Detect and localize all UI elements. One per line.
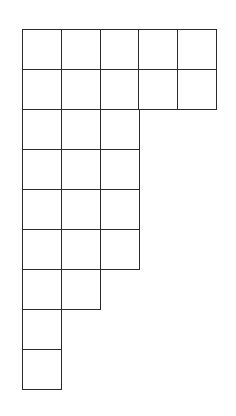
diagram-cell — [100, 29, 140, 70]
diagram-cell — [22, 69, 62, 110]
diagram-cell — [61, 229, 101, 270]
diagram-cell — [100, 149, 140, 190]
diagram-cell — [100, 109, 140, 150]
diagram-cell — [61, 189, 101, 230]
diagram-cell — [61, 109, 101, 150]
diagram-cell — [61, 149, 101, 190]
diagram-cell — [138, 29, 178, 70]
diagram-cell — [22, 349, 62, 390]
diagram-cell — [100, 189, 140, 230]
diagram-cell — [22, 229, 62, 270]
diagram-cell — [61, 269, 101, 310]
diagram-cell — [22, 109, 62, 150]
diagram-cell — [22, 309, 62, 350]
diagram-cell — [22, 149, 62, 190]
diagram-cell — [100, 229, 140, 270]
diagram-cell — [22, 269, 62, 310]
diagram-cell — [22, 29, 62, 70]
diagram-cell — [177, 29, 217, 70]
diagram-cell — [22, 189, 62, 230]
diagram-cell — [177, 69, 217, 110]
diagram-cell — [61, 69, 101, 110]
diagram-cell — [138, 69, 178, 110]
diagram-cell — [100, 69, 140, 110]
diagram-cell — [61, 29, 101, 70]
young-diagram — [0, 0, 236, 416]
